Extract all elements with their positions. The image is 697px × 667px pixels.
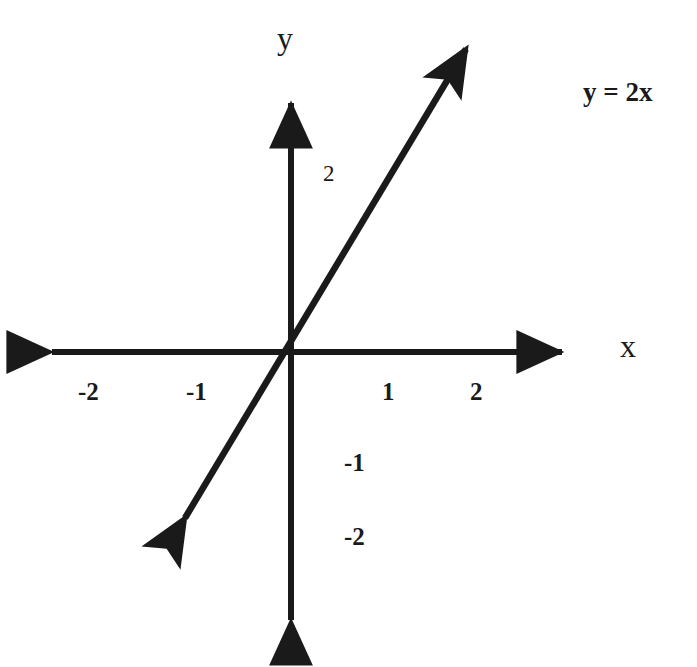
tick-label-y-2: 2 [323,162,335,185]
tick-label-x-2: 2 [470,379,483,404]
tick-label-x-neg-2: -2 [78,379,99,404]
axis-label-y: y [277,22,293,54]
graph-figure: y x y = 2x 2 -2 -1 1 2 -1 -2 [0,0,697,667]
axis-label-x: x [620,330,636,362]
line-y-equals-2x [185,49,466,518]
tick-label-x-1: 1 [382,379,395,404]
tick-label-x-neg-1: -1 [186,379,207,404]
equation-annotation: y = 2x [583,79,652,106]
tick-label-y-neg-2: -2 [344,524,365,549]
tick-label-y-neg-1: -1 [344,450,365,475]
